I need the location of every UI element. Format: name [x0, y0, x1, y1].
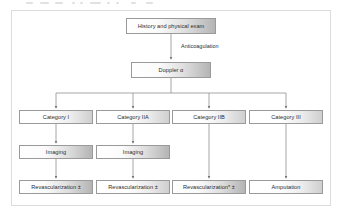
node-doppler: Doppler α	[131, 62, 211, 78]
node-label: Category IIA	[117, 114, 149, 120]
node-label: Imaging	[123, 149, 143, 155]
node-label: Category IIB	[193, 114, 225, 120]
node-label: Category I	[43, 114, 69, 120]
node-revascularization-category-iib: Revascularization* ±	[172, 180, 246, 194]
figure-page: History and physical exam Anticoagulatio…	[0, 0, 342, 222]
node-label: History and physical exam	[138, 23, 205, 29]
figure-frame	[11, 10, 331, 206]
node-category-iii: Category III	[249, 110, 323, 124]
node-history-and-physical-exam: History and physical exam	[126, 18, 216, 34]
node-category-iia: Category IIA	[96, 110, 170, 124]
node-label: Amputation	[272, 184, 301, 190]
node-category-i: Category I	[19, 110, 93, 124]
node-revascularization-category-iia: Revascularization ±	[96, 180, 170, 194]
node-revascularization-category-i: Revascularization ±	[19, 180, 93, 194]
node-label: Revascularization* ±	[183, 184, 235, 190]
node-label: Imaging	[46, 149, 66, 155]
edge-label-anticoagulation: Anticoagulation	[181, 43, 219, 49]
node-amputation-category-iii: Amputation	[249, 180, 323, 194]
node-imaging-category-iia: Imaging	[96, 145, 170, 159]
node-label: Revascularization ±	[31, 184, 81, 190]
node-label: Category III	[271, 114, 301, 120]
node-label: Revascularization ±	[108, 184, 158, 190]
scan-artifact-strip	[0, 0, 342, 8]
node-imaging-category-i: Imaging	[19, 145, 93, 159]
node-label: Doppler α	[159, 67, 184, 73]
node-category-iib: Category IIB	[172, 110, 246, 124]
